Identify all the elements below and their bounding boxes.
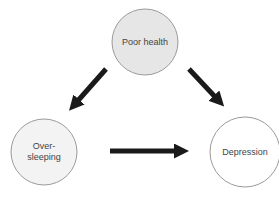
- node-label-poor-health: Poor health: [122, 37, 168, 48]
- node-label-oversleeping-line2: sleeping: [27, 152, 61, 163]
- diagram-canvas: [0, 0, 279, 198]
- node-label-oversleeping: Over- sleeping: [27, 141, 61, 163]
- arrow-poor-health-to-depression: [189, 69, 218, 100]
- node-label-depression: Depression: [222, 147, 268, 158]
- node-label-oversleeping-line1: Over-: [27, 141, 61, 152]
- arrow-poor-health-to-oversleeping: [75, 69, 106, 104]
